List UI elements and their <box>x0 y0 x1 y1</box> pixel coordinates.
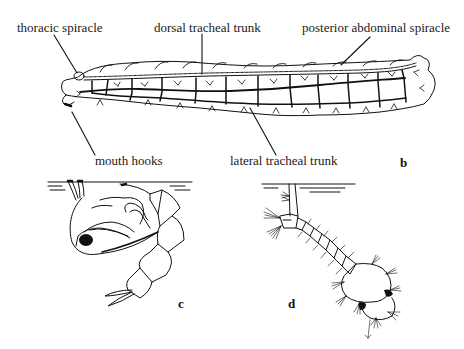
larva-thorax <box>341 264 391 303</box>
label-lateral-tracheal-trunk: lateral tracheal trunk <box>230 154 338 167</box>
leader-mouth-hooks <box>72 112 95 155</box>
water-surface-d <box>262 184 355 192</box>
water-surface-c <box>48 182 192 190</box>
larva-siphon <box>289 184 298 216</box>
panel-c-pupa-drawing <box>48 181 192 306</box>
lateral-tracheal-trunk <box>80 78 405 92</box>
leader-thoracic-spiracle <box>54 35 77 73</box>
pupa-paddles <box>105 290 134 306</box>
label-dorsal-tracheal-trunk: dorsal tracheal trunk <box>154 21 261 34</box>
label-mouth-hooks: mouth hooks <box>95 154 163 167</box>
panel-letter-c: c <box>178 297 184 310</box>
leader-posterior-spiracle <box>341 37 370 65</box>
panel-d-larva-drawing <box>262 184 401 338</box>
panel-letter-b: b <box>400 156 407 169</box>
panel-letter-d: d <box>288 297 295 310</box>
figure-drawings <box>0 0 464 349</box>
label-posterior-abdominal-spiracle: posterior abdominal spiracle <box>302 21 450 34</box>
panel-b-larva-drawing <box>54 34 435 155</box>
pupa-eye <box>79 234 93 246</box>
label-thoracic-spiracle: thoracic spiracle <box>17 21 103 34</box>
